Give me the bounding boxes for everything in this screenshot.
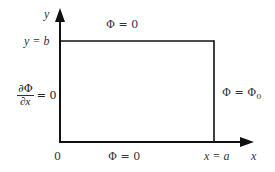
y-axis-arrowhead-icon xyxy=(55,8,65,22)
x-axis-label: x xyxy=(251,150,256,162)
right-boundary-sub: 0 xyxy=(256,92,261,101)
partial-derivative: ∂Φ ∂x xyxy=(17,83,34,107)
left-boundary-label: ∂Φ ∂x = 0 xyxy=(17,83,56,107)
x-equals-a-label: x = a xyxy=(204,150,229,162)
partial-denominator: ∂x xyxy=(20,96,30,108)
y-equals-b-label: y = b xyxy=(24,35,49,47)
left-boundary-equals: = 0 xyxy=(37,89,57,102)
origin-label: 0 xyxy=(54,151,61,162)
partial-numerator: ∂Φ xyxy=(17,83,34,96)
top-boundary-label: Φ = 0 xyxy=(106,19,138,30)
y-axis-label: y xyxy=(44,8,49,20)
right-boundary-main: Φ = Φ xyxy=(222,86,256,99)
x-axis-arrowhead-icon xyxy=(240,137,254,147)
bottom-boundary-label: Φ = 0 xyxy=(108,151,140,162)
right-boundary-label: Φ = Φ0 xyxy=(222,87,261,101)
